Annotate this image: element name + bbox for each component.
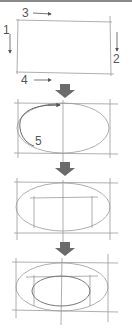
step-4-ellipses xyxy=(12,254,118,325)
step-label-2: 2 xyxy=(113,53,120,65)
step-label-1: 1 xyxy=(3,24,10,36)
step-1-rectangle xyxy=(16,16,114,76)
step-3-ellipse xyxy=(14,178,118,242)
step-1-arrows xyxy=(10,13,117,80)
down-arrow-icon xyxy=(55,242,75,256)
step-2-ellipse xyxy=(14,99,118,162)
down-arrow-icon xyxy=(55,84,75,98)
drawing-steps xyxy=(0,0,132,329)
step-label-4: 4 xyxy=(21,74,28,86)
down-arrow-icon xyxy=(55,162,75,176)
step-label-3: 3 xyxy=(22,7,29,19)
step-label-5: 5 xyxy=(35,135,42,147)
